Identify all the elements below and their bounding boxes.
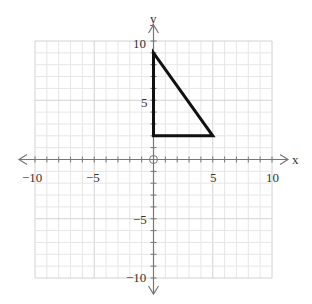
x-tick-label-10: 10 (266, 170, 279, 185)
y-tick-label-neg10: −10 (126, 270, 146, 285)
x-tick-label-neg10: −10 (22, 170, 42, 185)
triangle-polygon (154, 53, 213, 136)
coordinate-plane: x y −10 −5 5 10 10 5 −5 −10 (0, 0, 312, 304)
y-tick-label-10: 10 (133, 36, 146, 51)
x-tick-label-neg5: −5 (86, 170, 100, 185)
triangle-shape (154, 53, 213, 136)
y-tick-label-5: 5 (141, 95, 148, 110)
y-tick-label-neg5: −5 (133, 212, 147, 227)
x-axis-label: x (292, 152, 299, 167)
x-tick-label-5: 5 (210, 170, 217, 185)
y-axis-label: y (150, 11, 157, 26)
